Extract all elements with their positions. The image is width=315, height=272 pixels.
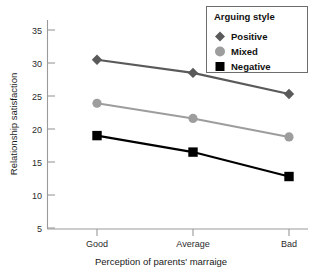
y-tick-label-15: 15 [32, 158, 42, 168]
data-point-negative-bad[interactable] [284, 172, 293, 181]
series-negative [92, 131, 293, 181]
y-tick-label-25: 25 [32, 92, 42, 102]
legend-item-negative[interactable]: Negative [216, 61, 271, 72]
y-axis-title: Relationship satisfaction [8, 73, 19, 175]
y-tick-label-20: 20 [32, 125, 42, 135]
y-tick-label-30: 30 [32, 59, 42, 69]
data-point-negative-good[interactable] [92, 131, 101, 140]
line-chart: 35 30 25 20 15 10 5 Good Average Bad Per… [0, 0, 315, 272]
legend-label-mixed: Mixed [231, 46, 258, 57]
legend-item-mixed[interactable]: Mixed [215, 46, 258, 57]
x-axis-title: Perception of parents' marraige [95, 256, 227, 267]
legend: Arguing style Positive Mixed Negative [207, 7, 308, 73]
data-point-mixed-good[interactable] [92, 99, 101, 108]
legend-title: Arguing style [214, 11, 275, 22]
data-point-mixed-average[interactable] [188, 114, 197, 123]
y-tick-label-10: 10 [32, 191, 42, 201]
legend-label-positive: Positive [231, 31, 267, 42]
data-point-positive-good[interactable] [92, 55, 102, 65]
legend-label-negative: Negative [231, 61, 271, 72]
series-mixed [92, 99, 293, 142]
data-point-positive-average[interactable] [188, 68, 198, 78]
chart-figure: 35 30 25 20 15 10 5 Good Average Bad Per… [0, 0, 315, 272]
x-tick-label-average: Average [176, 239, 209, 249]
x-tick-label-good: Good [86, 239, 108, 249]
square-marker-icon [216, 62, 225, 71]
data-point-positive-bad[interactable] [284, 89, 294, 99]
data-series-layer [92, 55, 294, 182]
circle-marker-icon [215, 47, 225, 57]
y-tick-label-5: 5 [37, 224, 42, 234]
data-point-mixed-bad[interactable] [284, 132, 293, 141]
y-tick-label-35: 35 [32, 26, 42, 36]
x-tick-labels: Good Average Bad [86, 239, 297, 249]
x-tick-label-bad: Bad [281, 239, 297, 249]
data-point-negative-average[interactable] [188, 147, 197, 156]
y-tick-labels: 35 30 25 20 15 10 5 [32, 26, 42, 234]
